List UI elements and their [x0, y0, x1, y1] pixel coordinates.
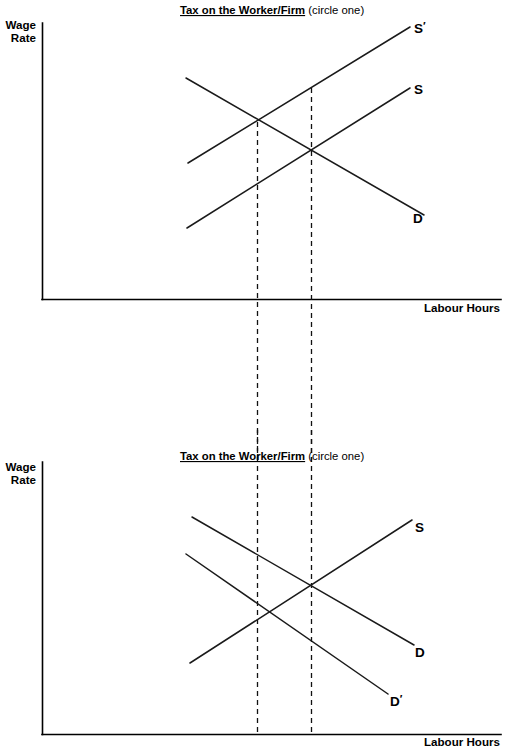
bottom-chart-demand-shifted-prime: ′: [400, 693, 403, 705]
top-chart-title-underlined: Tax on the Worker/Firm: [180, 4, 305, 16]
bottom-chart-demand-label: D: [415, 645, 425, 660]
top-chart-title-plain: (circle one): [305, 4, 364, 16]
top-chart-demand-label: D: [413, 211, 423, 226]
bottom-chart-title: Tax on the Worker/Firm (circle one): [180, 450, 364, 462]
top-chart-supply-curve: [187, 88, 410, 228]
top-chart-y-axis-label-line2: Rate: [11, 31, 37, 44]
top-chart-x-axis-label: Labour Hours: [424, 301, 500, 314]
bottom-chart-demand-shifted-label: D′: [390, 693, 403, 709]
top-chart-supply-shifted-prime: ′: [423, 20, 426, 32]
top-chart-supply-label: S: [414, 82, 423, 97]
worksheet-page: Tax on the Worker/Firm (circle one) Wage…: [0, 0, 515, 747]
bottom-chart-title-underlined: Tax on the Worker/Firm: [180, 450, 305, 462]
top-chart-title: Tax on the Worker/Firm (circle one): [180, 4, 364, 16]
bottom-chart-supply-curve: [190, 520, 412, 663]
top-chart-supply-shifted-letter: S: [414, 21, 423, 36]
top-chart-supply-shifted-label: S′: [414, 20, 426, 36]
bottom-chart-y-axis-label-line2: Rate: [11, 473, 37, 486]
top-chart-y-axis-label-line1: Wage: [6, 18, 37, 31]
bottom-chart-x-axis-label: Labour Hours: [424, 735, 500, 747]
bottom-chart-y-axis-label-line1: Wage: [6, 460, 37, 473]
bottom-chart: Tax on the Worker/Firm (circle one) Wage…: [6, 450, 502, 747]
bottom-chart-demand-shifted-curve: [186, 554, 388, 694]
bottom-chart-title-plain: (circle one): [305, 450, 364, 462]
top-chart-demand-curve: [186, 78, 424, 215]
top-chart: Tax on the Worker/Firm (circle one) Wage…: [6, 4, 502, 314]
bottom-chart-demand-shifted-letter: D: [390, 694, 400, 709]
equilibrium-guides: [258, 88, 312, 734]
tax-incidence-diagram: Tax on the Worker/Firm (circle one) Wage…: [0, 0, 515, 747]
bottom-chart-supply-label: S: [415, 520, 424, 535]
